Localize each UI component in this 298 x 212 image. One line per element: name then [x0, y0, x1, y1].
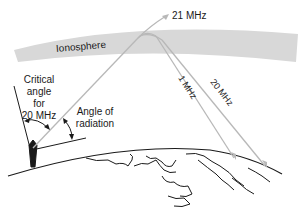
ionospheric-propagation-diagram: Ionosphere 21 M [0, 0, 298, 212]
label-20mhz: 20 MHz [208, 77, 235, 108]
ray-20mhz-down [162, 40, 265, 166]
svg-text:Angle of: Angle of [77, 106, 114, 117]
earth-surface [8, 148, 282, 176]
svg-text:angle: angle [27, 86, 52, 97]
angle-of-radiation-label: Angle of radiation [76, 106, 114, 129]
svg-text:Critical: Critical [24, 74, 55, 85]
svg-text:20 MHz: 20 MHz [22, 110, 56, 121]
label-1mhz: 1 MHz [176, 74, 199, 102]
critical-angle-label: Critical angle for 20 MHz [22, 74, 56, 121]
svg-text:for: for [33, 98, 45, 109]
antenna-tower-icon [29, 140, 37, 167]
arrowhead-1mhz [231, 152, 236, 160]
angle-of-radiation-arrow-bottom [69, 134, 74, 140]
arrowhead-21mhz [162, 14, 169, 20]
label-21mhz: 21 MHz [172, 10, 206, 21]
svg-text:radiation: radiation [76, 118, 114, 129]
coastline-shapes [86, 153, 270, 206]
